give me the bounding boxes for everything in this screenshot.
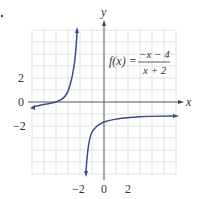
- bullet-dot: [1, 15, 3, 17]
- x-tick-2: 2: [125, 182, 131, 196]
- function-lhs: f(x) =: [109, 54, 137, 68]
- y-tick-2: 2: [18, 71, 24, 85]
- x-tick-0: 0: [101, 182, 107, 196]
- arrow-left-icon: [30, 105, 35, 110]
- y-tick-neg2: −2: [13, 119, 26, 133]
- y-tick-0: 0: [18, 95, 24, 109]
- x-tick-neg2: −2: [72, 182, 85, 196]
- y-axis-label: y: [100, 5, 107, 19]
- left-branch: [33, 32, 77, 107]
- function-numerator: −x − 4: [139, 48, 170, 60]
- function-denominator: x + 2: [142, 64, 167, 76]
- x-axis-arrow-icon: [178, 100, 184, 104]
- function-graph: x y 2 0 −2 −2 0 2 f(x) = −x − 4 x + 2: [0, 0, 202, 199]
- x-axis-label: x: [185, 95, 192, 109]
- right-branch: [86, 116, 174, 172]
- y-axis-arrow-icon: [102, 20, 106, 26]
